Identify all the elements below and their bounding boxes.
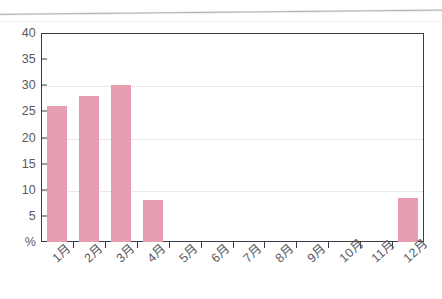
y-tick-mark-35 xyxy=(41,59,47,60)
y-tick-label-%: % xyxy=(0,236,36,249)
scan-artifact-line-secondary xyxy=(0,21,442,22)
bar-texture xyxy=(111,85,131,242)
x-tick-label-6月: 6月 xyxy=(206,238,234,266)
bar-texture xyxy=(47,106,67,242)
x-tick-label-7月: 7月 xyxy=(238,238,266,266)
y-tick-label-40: 40 xyxy=(0,27,36,40)
y-tick-label-5: 5 xyxy=(0,210,36,223)
x-tick-label-2月: 2月 xyxy=(79,238,107,266)
x-tick-label-9月: 9月 xyxy=(302,238,330,266)
bar-texture xyxy=(143,200,163,242)
x-tick-label-3月: 3月 xyxy=(111,238,139,266)
y-tick-label-15: 15 xyxy=(0,157,36,170)
y-tick-label-20: 20 xyxy=(0,131,36,144)
bar-texture xyxy=(79,96,99,242)
y-tick-mark-30 xyxy=(41,85,47,86)
bars-layer xyxy=(41,33,424,242)
y-tick-mark-5 xyxy=(41,215,47,216)
scan-artifact-line xyxy=(0,9,442,16)
y-tick-label-30: 30 xyxy=(0,79,36,92)
x-tick-label-1月: 1月 xyxy=(47,238,75,266)
x-axis-labels: 1月2月3月4月5月6月7月8月9月10月11月12月 xyxy=(41,242,424,299)
x-tick-label-4月: 4月 xyxy=(142,238,170,266)
y-tick-mark-15 xyxy=(41,163,47,164)
y-tick-label-10: 10 xyxy=(0,184,36,197)
x-tick-label-5月: 5月 xyxy=(174,238,202,266)
bar-3月[interactable] xyxy=(111,85,131,242)
y-tick-mark-20 xyxy=(41,137,47,138)
bar-4月[interactable] xyxy=(143,200,163,242)
bar-1月[interactable] xyxy=(47,106,67,242)
y-tick-mark-10 xyxy=(41,189,47,190)
bar-2月[interactable] xyxy=(79,96,99,242)
y-tick-label-25: 25 xyxy=(0,105,36,118)
x-tick-label-8月: 8月 xyxy=(270,238,298,266)
y-tick-label-35: 35 xyxy=(0,53,36,66)
y-tick-mark-25 xyxy=(41,111,47,112)
bar-chart: %510152025303540 1月2月3月4月5月6月7月8月9月10月11… xyxy=(0,0,442,299)
y-axis: %510152025303540 xyxy=(0,33,36,242)
